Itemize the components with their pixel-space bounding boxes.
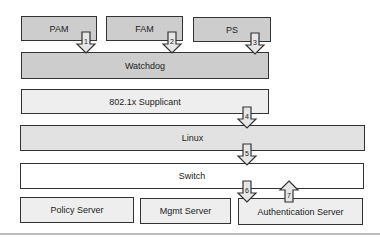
bottom-divider (0, 233, 380, 235)
switch-label: Switch (179, 171, 206, 181)
mgmt-server-box: Mgmt Server (140, 198, 231, 224)
authentication-server-label: Authentication Server (257, 207, 343, 217)
supplicant-box: 802.1x Supplicant (21, 89, 269, 114)
arrow-number-1: 1 (81, 38, 91, 45)
ps-label: PS (226, 25, 238, 35)
arrow-number-5: 5 (242, 150, 252, 157)
arrow-number-7: 7 (284, 192, 294, 199)
switch-box: Switch (20, 163, 364, 189)
watchdog-box: Watchdog (21, 52, 269, 79)
pam-label: PAM (50, 24, 69, 34)
arrow-number-4: 4 (242, 113, 252, 120)
arrow-number-2: 2 (167, 38, 177, 45)
mgmt-server-label: Mgmt Server (160, 206, 212, 216)
fam-label: FAM (135, 24, 154, 34)
linux-box: Linux (20, 125, 365, 151)
arrow-number-3: 3 (250, 39, 260, 46)
linux-label: Linux (182, 133, 204, 143)
supplicant-label: 802.1x Supplicant (109, 97, 181, 107)
policy-server-box: Policy Server (20, 197, 134, 223)
policy-server-label: Policy Server (50, 205, 103, 215)
arrow-number-6: 6 (242, 187, 252, 194)
watchdog-label: Watchdog (125, 61, 165, 71)
